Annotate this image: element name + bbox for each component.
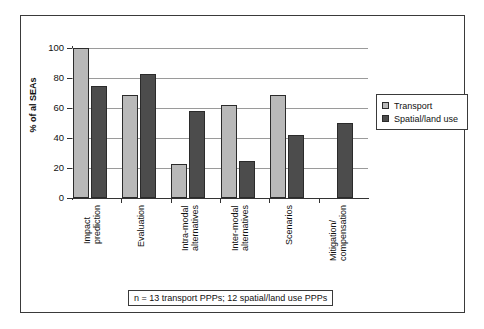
x-axis-category-label-text: Impactprediction bbox=[82, 205, 102, 244]
bar bbox=[189, 111, 205, 198]
x-axis-category-label: Intra-modalalternatives bbox=[183, 205, 197, 283]
x-axis-category-label-text: Intra-modalalternatives bbox=[180, 205, 200, 251]
y-tick-label: 40 bbox=[34, 132, 64, 143]
legend-item-label: Transport bbox=[394, 101, 432, 111]
y-tick-label: 60 bbox=[34, 102, 64, 113]
x-axis-category-label-text: Mitigation/compensation bbox=[328, 205, 348, 261]
legend-item[interactable]: Transport bbox=[382, 99, 463, 112]
bar bbox=[221, 105, 237, 198]
chart-figure: % of al SEAs 020406080100 Impactpredicti… bbox=[0, 0, 484, 329]
bar bbox=[270, 95, 286, 199]
bar bbox=[337, 123, 353, 198]
x-tick-mark bbox=[121, 198, 122, 203]
x-tick-mark bbox=[319, 198, 320, 203]
x-tick-mark bbox=[269, 198, 270, 203]
x-tick-mark bbox=[171, 198, 172, 203]
bar bbox=[122, 95, 138, 199]
legend-item-label: Spatial/land use bbox=[394, 114, 458, 124]
legend-swatch-icon bbox=[382, 115, 389, 122]
bar bbox=[171, 164, 187, 199]
x-axis-category-label: Impactprediction bbox=[85, 205, 99, 283]
plot-area bbox=[72, 48, 368, 198]
y-tick-label: 20 bbox=[34, 162, 64, 173]
y-tick-label: 80 bbox=[34, 72, 64, 83]
x-axis-category-label: Mitigation/compensation bbox=[331, 205, 345, 283]
x-axis-category-label-text: Inter-modalalternatives bbox=[230, 205, 250, 251]
x-axis-category-label-text: Scenarios bbox=[284, 205, 294, 245]
x-axis-category-label: Scenarios bbox=[282, 205, 296, 283]
y-tick-label: 100 bbox=[34, 42, 64, 53]
x-tick-mark bbox=[220, 198, 221, 203]
gridline bbox=[72, 48, 368, 49]
x-axis-category-label: Evaluation bbox=[134, 205, 148, 283]
bar bbox=[288, 135, 304, 198]
bar bbox=[73, 48, 89, 198]
footnote-box: n = 13 transport PPPs; 12 spatial/land u… bbox=[128, 290, 333, 306]
x-axis-category-label: Inter-modalalternatives bbox=[233, 205, 247, 283]
bar bbox=[91, 86, 107, 199]
bar bbox=[239, 161, 255, 199]
gridline bbox=[72, 78, 368, 79]
legend-swatch-icon bbox=[382, 102, 389, 109]
footnote-text: n = 13 transport PPPs; 12 spatial/land u… bbox=[134, 293, 327, 303]
y-tick-label: 0 bbox=[34, 192, 64, 203]
bar bbox=[140, 74, 156, 199]
chart-legend: TransportSpatial/land use bbox=[376, 94, 468, 130]
x-axis-category-label-text: Evaluation bbox=[136, 205, 146, 247]
legend-item[interactable]: Spatial/land use bbox=[382, 112, 463, 125]
